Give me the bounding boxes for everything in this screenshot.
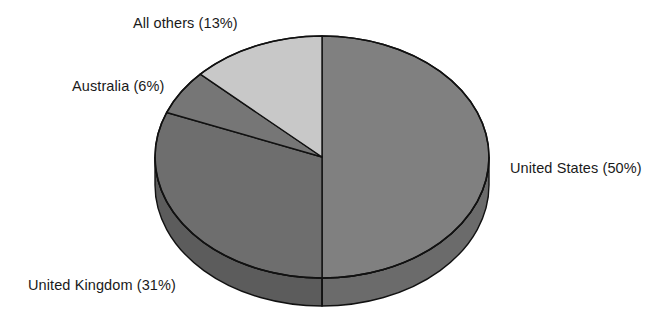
pie-chart-figure: All others (13%) Australia (6%) United K…: [0, 0, 669, 330]
slice-label-australia: Australia (6%): [72, 78, 164, 94]
slice-label-all-others: All others (13%): [133, 15, 238, 31]
slice-label-united-states: United States (50%): [510, 160, 642, 176]
pie-top-face-slices: [155, 36, 489, 278]
slice-label-united-kingdom: United Kingdom (31%): [28, 277, 176, 293]
